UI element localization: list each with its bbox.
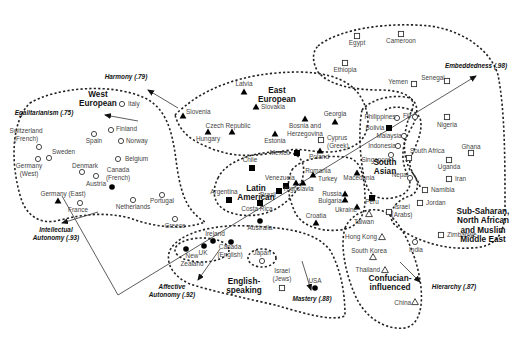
axis-harmony-arrow bbox=[148, 90, 178, 108]
country-label: Costa Rica bbox=[241, 205, 273, 212]
open-circle-marker-icon bbox=[130, 197, 135, 202]
country-label: India bbox=[409, 246, 423, 253]
filled-triangle-marker-icon bbox=[342, 197, 349, 203]
open-square-marker-icon bbox=[444, 114, 449, 119]
country-japan: Japan bbox=[253, 249, 271, 264]
cultural-map-diagram: ItalyFinlandNorwayBelgiumSwitzerland(Fre… bbox=[0, 0, 523, 339]
open-square-marker-icon bbox=[354, 33, 359, 38]
country-sweden: Sweden bbox=[46, 148, 75, 161]
open-circle-marker-icon bbox=[401, 133, 406, 138]
open-square-marker-icon bbox=[411, 81, 416, 86]
axis-label-egalitarianism: Egalitarianism (.75) bbox=[15, 109, 74, 117]
country-label: Hungary bbox=[196, 135, 221, 143]
axis-label-intellectual-autonomy: IntellectualAutonomy (.93) bbox=[32, 226, 80, 242]
open-circle-marker-icon bbox=[35, 156, 40, 161]
region-label-sub-saharan: Sub-Saharan,North Africanand MuslimMiddl… bbox=[457, 207, 510, 244]
country-label: Fiji bbox=[403, 112, 411, 120]
country-canada-english: Canada(English) bbox=[217, 239, 242, 259]
country-yemen: Yemen bbox=[388, 78, 416, 87]
region-label-latin-american: LatinAmerican bbox=[237, 184, 274, 202]
filled-square-marker-icon bbox=[249, 165, 255, 171]
country-label: Cameroon bbox=[386, 37, 416, 44]
country-australia: Australia bbox=[248, 218, 273, 231]
axis-label-affective-autonomy: AffectiveAutonomy (.92) bbox=[148, 283, 196, 299]
country-label: Croatia bbox=[306, 212, 327, 219]
country-georgia: Georgia bbox=[324, 110, 347, 125]
country-label: Latvia bbox=[235, 80, 252, 87]
country-croatia: Croatia bbox=[306, 212, 327, 226]
country-label: Slovenia bbox=[186, 108, 211, 115]
country-label-secondary: (Arabs) bbox=[392, 211, 413, 219]
country-italy: Italy bbox=[119, 100, 140, 108]
country-label: Georgia bbox=[324, 110, 347, 118]
open-square-marker-icon bbox=[398, 31, 403, 36]
open-circle-marker-icon bbox=[115, 156, 120, 161]
country-peru: Peru bbox=[365, 195, 379, 205]
country-label: Canada bbox=[219, 243, 242, 250]
open-square-marker-icon bbox=[468, 150, 473, 155]
countries-layer: ItalyFinlandNorwayBelgiumSwitzerland(Fre… bbox=[9, 31, 481, 306]
country-label: Switzerland bbox=[9, 127, 42, 134]
country-label: Indonesia bbox=[368, 142, 396, 149]
open-square-marker-icon bbox=[438, 232, 443, 237]
axis-label-embeddedness: Embeddedness (.98) bbox=[445, 62, 507, 70]
country-label: New bbox=[186, 252, 199, 259]
country-indonesia: Indonesia bbox=[368, 142, 400, 149]
country-bosnia-andherzegovina: Bosnia andHerzegovina bbox=[287, 116, 323, 138]
open-circle-marker-icon bbox=[412, 114, 417, 119]
country-south-africa: South Africa bbox=[406, 147, 445, 161]
filled-triangle-marker-icon bbox=[342, 191, 349, 197]
filled-triangle-marker-icon bbox=[332, 119, 339, 125]
country-poland: Poland bbox=[309, 148, 329, 160]
axis-label-hierarchy: Hierarchy (.87) bbox=[432, 283, 476, 291]
country-label: Philippines bbox=[365, 113, 396, 121]
open-circle-marker-icon bbox=[118, 138, 123, 143]
country-label: Mexico bbox=[270, 149, 291, 156]
country-label: Yemen bbox=[388, 78, 408, 85]
country-senegal: Senegal bbox=[421, 74, 449, 84]
country-label-secondary: (French) bbox=[106, 174, 130, 182]
open-triangle-marker-icon bbox=[379, 234, 386, 240]
country-label: Ireland bbox=[205, 230, 225, 237]
axis-label-harmony: Harmony (.79) bbox=[105, 73, 148, 81]
country-hong-kong: Hong Kong bbox=[345, 233, 385, 241]
country-label: Venezuela bbox=[265, 174, 295, 181]
open-triangle-marker-icon bbox=[382, 267, 389, 273]
country-yugoslavia: Yugoslavia bbox=[283, 180, 314, 193]
country-label: Yugoslavia bbox=[283, 185, 314, 193]
country-label: USA bbox=[308, 277, 322, 284]
filled-triangle-marker-icon bbox=[313, 220, 320, 226]
country-label: UK bbox=[199, 249, 209, 256]
country-ethiopia: Ethiopia bbox=[333, 60, 357, 74]
country-belgium: Belgium bbox=[115, 155, 148, 163]
country-egypt: Egypt bbox=[349, 33, 366, 47]
filled-triangle-marker-icon bbox=[253, 104, 260, 110]
country-label: Spain bbox=[86, 137, 103, 145]
country-bolivia: Bolivia bbox=[366, 124, 392, 131]
country-label: Denmark bbox=[72, 162, 99, 169]
open-square-marker-icon bbox=[318, 137, 323, 142]
country-label: Nigeria bbox=[437, 121, 458, 129]
country-south-korea: South Korea bbox=[351, 247, 387, 260]
axis-mastery-arrow bbox=[302, 261, 311, 290]
country-label: South Africa bbox=[410, 147, 445, 154]
country-label: Ukraine bbox=[335, 206, 357, 213]
open-circle-marker-icon bbox=[119, 101, 124, 106]
country-czech-republic: Czech Republic bbox=[206, 122, 252, 135]
open-square-marker-icon bbox=[446, 176, 451, 181]
country-label: Ghana bbox=[461, 143, 481, 150]
filled-circle-marker-icon bbox=[109, 184, 115, 190]
country-ukraine: Ukraine bbox=[335, 204, 360, 213]
country-label: Turkey bbox=[318, 175, 338, 183]
country-label: Hong Kong bbox=[345, 233, 377, 241]
open-triangle-marker-icon bbox=[370, 254, 377, 260]
country-label-secondary: (French) bbox=[14, 135, 38, 143]
axis-egalitarianism-arrow bbox=[105, 115, 138, 121]
open-square-marker-icon bbox=[444, 78, 449, 83]
country-label: Thailand bbox=[355, 266, 380, 273]
country-label: Peru bbox=[365, 198, 379, 205]
country-label: Taiwan bbox=[354, 218, 374, 225]
country-label: Malaysia bbox=[376, 132, 402, 140]
country-label-secondary: (Jews) bbox=[273, 275, 292, 283]
country-label: Belgium bbox=[125, 155, 148, 163]
